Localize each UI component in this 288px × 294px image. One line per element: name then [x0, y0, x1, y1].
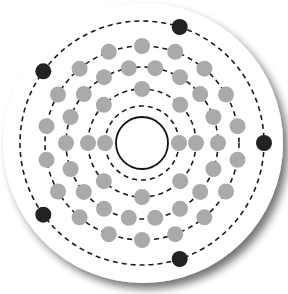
electron: [167, 226, 183, 242]
electron: [172, 97, 188, 113]
electron: [76, 86, 92, 102]
electron: [134, 232, 150, 248]
electron: [196, 209, 212, 225]
electron: [192, 184, 208, 200]
valence-electron: [172, 19, 188, 35]
nucleus: [116, 117, 168, 169]
electron: [76, 184, 92, 200]
electron: [171, 135, 187, 151]
electron: [97, 135, 113, 151]
electron: [167, 44, 183, 60]
electron: [96, 69, 112, 85]
electron: [63, 161, 79, 177]
electron: [230, 118, 246, 134]
electron: [134, 189, 150, 205]
electron: [58, 135, 74, 151]
electron: [101, 226, 117, 242]
electron: [218, 87, 234, 103]
electron: [50, 184, 66, 200]
electron: [96, 97, 112, 113]
electron: [205, 161, 221, 177]
electron: [147, 60, 163, 76]
electron: [72, 209, 88, 225]
electron: [172, 69, 188, 85]
valence-electron: [256, 135, 272, 151]
electron: [121, 60, 137, 76]
electron: [172, 173, 188, 189]
electron: [230, 152, 246, 168]
electron: [134, 38, 150, 54]
electron: [210, 135, 226, 151]
valence-electron: [35, 63, 51, 79]
electron: [121, 210, 137, 226]
electron: [134, 81, 150, 97]
electron: [188, 135, 204, 151]
electron: [196, 61, 212, 77]
electron: [96, 201, 112, 217]
electron: [39, 152, 55, 168]
bohr-atom-svg: [0, 0, 288, 294]
valence-electron: [172, 251, 188, 267]
electron: [72, 61, 88, 77]
electron: [147, 210, 163, 226]
electron: [172, 201, 188, 217]
electron: [39, 118, 55, 134]
electron: [63, 109, 79, 125]
electron: [218, 184, 234, 200]
valence-electron: [35, 207, 51, 223]
electron: [192, 86, 208, 102]
electron: [50, 87, 66, 103]
electron: [80, 135, 96, 151]
electron: [205, 109, 221, 125]
electron: [96, 173, 112, 189]
electron: [101, 44, 117, 60]
